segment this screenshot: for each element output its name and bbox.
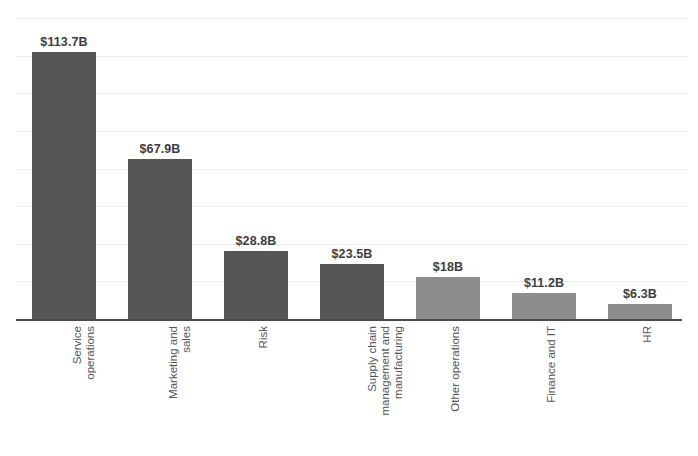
bar-rect[interactable]	[128, 159, 192, 319]
x-axis-label-line: Risk	[257, 326, 270, 348]
x-axis-label: Serviceoperations	[16, 322, 112, 456]
x-axis-label: Supply chainmanagement andmanufacturing	[304, 322, 400, 456]
x-axis-label-line: Supply chain	[366, 326, 379, 416]
x-axis-label: Risk	[208, 322, 304, 456]
bar-column[interactable]: $23.5B	[320, 264, 384, 319]
x-axis-label-text: Risk	[257, 326, 270, 348]
bar-chart: $113.7B$67.9B$28.8B$23.5B$18B$11.2B$6.3B…	[0, 0, 698, 456]
bar-rect[interactable]	[416, 277, 480, 319]
x-axis-label: HR	[592, 322, 688, 456]
bar-value-label: $11.2B	[524, 276, 564, 290]
bar-value-label: $28.8B	[236, 234, 277, 248]
bar-value-label: $18B	[433, 260, 463, 274]
x-axis-label-line: sales	[180, 326, 193, 399]
bar-column[interactable]: $6.3B	[608, 304, 672, 319]
bar-rect[interactable]	[224, 251, 288, 319]
bar-rect[interactable]	[512, 293, 576, 319]
x-axis-label-text: HR	[641, 326, 654, 343]
bar-rect[interactable]	[32, 52, 96, 319]
bar-column[interactable]: $18B	[416, 277, 480, 319]
bar-value-label: $113.7B	[40, 35, 87, 49]
chart-plot-area: $113.7B$67.9B$28.8B$23.5B$18B$11.2B$6.3B	[16, 0, 688, 320]
x-axis-label-text: Other operations	[449, 326, 462, 412]
x-axis-label-line: operations	[84, 326, 97, 380]
x-axis-label: Marketing andsales	[112, 322, 208, 456]
bar-rect[interactable]	[320, 264, 384, 319]
bar-column[interactable]: $28.8B	[224, 251, 288, 319]
bar-value-label: $6.3B	[623, 287, 657, 301]
x-axis-labels: ServiceoperationsMarketing andsalesRiskS…	[16, 322, 688, 456]
x-axis-label: Other operations	[400, 322, 496, 456]
x-axis-label-line: Marketing and	[167, 326, 180, 399]
x-axis-label-text: Supply chainmanagement andmanufacturing	[366, 326, 405, 416]
x-axis-label-line: Finance and IT	[545, 326, 558, 403]
bar-value-label: $67.9B	[140, 142, 181, 156]
bar-column[interactable]: $67.9B	[128, 159, 192, 319]
bar-value-label: $23.5B	[332, 247, 373, 261]
x-axis-label-line: Service	[71, 326, 84, 380]
bar-column[interactable]: $113.7B	[32, 52, 96, 319]
x-axis-label-line: management and	[379, 326, 392, 416]
x-axis-label-line: Other operations	[449, 326, 462, 412]
x-axis-label-text: Serviceoperations	[71, 326, 97, 380]
x-axis-line	[16, 319, 682, 321]
bar-column[interactable]: $11.2B	[512, 293, 576, 319]
x-axis-label-text: Finance and IT	[545, 326, 558, 403]
x-axis-label-text: Marketing andsales	[167, 326, 193, 399]
x-axis-label-line: HR	[641, 326, 654, 343]
bar-rect[interactable]	[608, 304, 672, 319]
x-axis-label: Finance and IT	[496, 322, 592, 456]
